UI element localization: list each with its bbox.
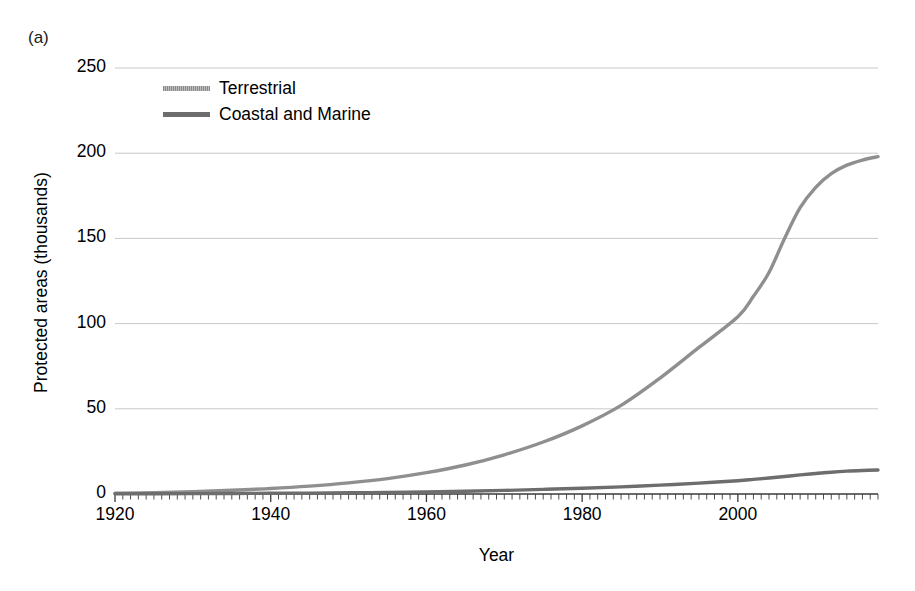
chart-figure: (a) 050100150200250 19201940196019802000… xyxy=(0,0,915,591)
legend-item-terrestrial: Terrestrial xyxy=(163,75,371,101)
series-line-terrestrial xyxy=(115,157,878,494)
x-tick-label-1920: 1920 xyxy=(75,504,155,525)
x-tick-label-1940: 1940 xyxy=(231,504,311,525)
legend-label-coastal-and-marine: Coastal and Marine xyxy=(219,104,371,125)
y-tick-label-0: 0 xyxy=(36,482,106,503)
y-tick-label-250: 250 xyxy=(36,56,106,77)
legend-item-coastal-and-marine: Coastal and Marine xyxy=(163,101,371,127)
line-chart-plot xyxy=(0,0,915,591)
x-tick-label-2000: 2000 xyxy=(698,504,778,525)
legend-label-terrestrial: Terrestrial xyxy=(219,78,296,99)
x-tick-label-1980: 1980 xyxy=(542,504,622,525)
y-axis-label: Protected areas (thousands) xyxy=(31,118,52,448)
chart-legend: Terrestrial Coastal and Marine xyxy=(163,75,371,127)
x-tick-label-1960: 1960 xyxy=(386,504,466,525)
x-axis-label: Year xyxy=(115,545,878,566)
legend-swatch-terrestrial-icon xyxy=(163,86,210,91)
panel-label: (a) xyxy=(28,28,49,48)
legend-swatch-coastal-icon xyxy=(163,112,210,117)
